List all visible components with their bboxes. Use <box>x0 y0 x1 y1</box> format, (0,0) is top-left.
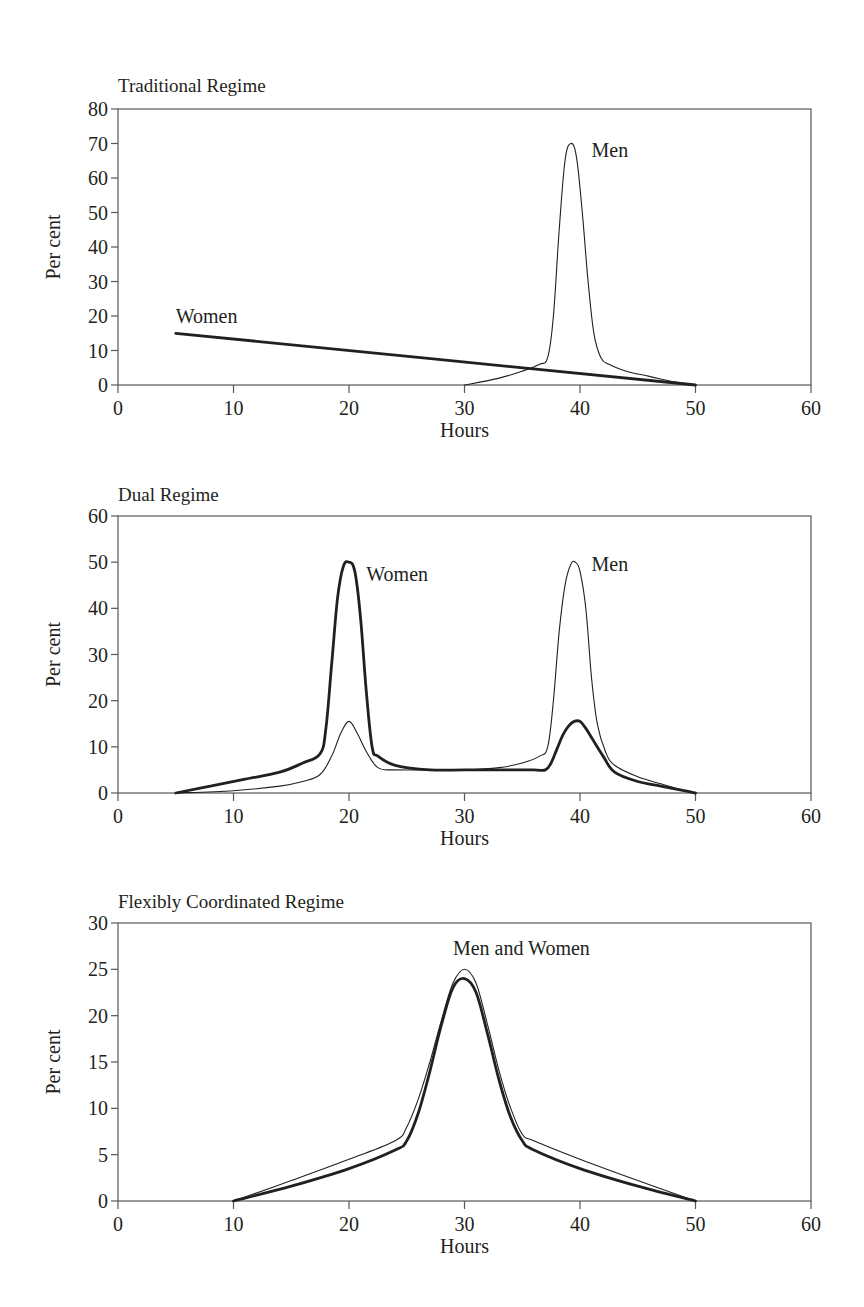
y-tick-label: 30 <box>88 912 108 934</box>
y-tick-label: 25 <box>88 958 108 980</box>
y-tick-label: 15 <box>88 1051 108 1073</box>
x-tick-label: 60 <box>801 1213 821 1235</box>
y-axis-label: Per cent <box>42 1029 64 1094</box>
x-tick-label: 20 <box>339 1213 359 1235</box>
series-annotation: Men and Women <box>453 937 590 959</box>
chart-flexibly-coordinated-regime: 0510152025300102030405060HoursPer centMe… <box>0 0 864 1280</box>
y-tick-label: 0 <box>98 1190 108 1212</box>
x-tick-label: 0 <box>113 1213 123 1235</box>
x-axis-label: Hours <box>440 1235 489 1257</box>
panel-flexibly-coordinated-regime: Flexibly Coordinated Regime 051015202530… <box>0 0 864 1280</box>
x-tick-label: 40 <box>570 1213 590 1235</box>
y-tick-label: 20 <box>88 1005 108 1027</box>
plot-frame <box>118 923 811 1201</box>
series-line-men <box>234 969 696 1201</box>
x-tick-label: 30 <box>455 1213 475 1235</box>
x-tick-label: 50 <box>686 1213 706 1235</box>
series-line-women <box>234 978 696 1201</box>
x-tick-label: 10 <box>224 1213 244 1235</box>
y-tick-label: 10 <box>88 1097 108 1119</box>
y-tick-label: 5 <box>98 1144 108 1166</box>
